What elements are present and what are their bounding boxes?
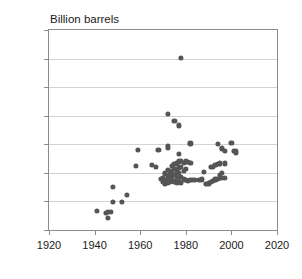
data-point	[165, 145, 170, 150]
data-point	[124, 192, 129, 197]
data-point	[183, 167, 188, 172]
x-tick-label: 1960	[128, 239, 152, 251]
data-point	[176, 152, 181, 157]
data-point	[188, 141, 193, 146]
plot-area: 01000200030004000500060007000 1920194019…	[48, 29, 278, 231]
data-point	[133, 163, 138, 168]
x-tick-mark	[140, 230, 141, 235]
chart-title: Billion barrels	[50, 13, 119, 25]
data-point	[154, 165, 159, 170]
data-point	[119, 199, 124, 204]
data-point	[110, 199, 115, 204]
data-point	[165, 112, 170, 117]
x-tick-mark	[231, 230, 232, 235]
scatter-chart: Billion barrels 010002000300040005000600…	[0, 0, 302, 279]
data-point	[94, 208, 99, 213]
data-point	[179, 55, 184, 60]
data-point	[110, 185, 115, 190]
data-point	[135, 147, 140, 152]
data-point	[156, 147, 161, 152]
x-tick-mark	[277, 230, 278, 235]
data-point	[176, 123, 181, 128]
x-tick-label: 1980	[174, 239, 198, 251]
data-point	[222, 149, 227, 154]
x-tick-mark	[49, 230, 50, 235]
data-points-layer	[49, 30, 277, 230]
x-tick-mark	[186, 230, 187, 235]
data-point	[172, 118, 177, 123]
x-tick-label: 2000	[219, 239, 243, 251]
x-tick-label: 1920	[37, 239, 61, 251]
data-point	[222, 175, 227, 180]
data-point	[201, 169, 206, 174]
data-point	[222, 161, 227, 166]
data-point	[229, 140, 234, 145]
x-tick-mark	[95, 230, 96, 235]
x-tick-label: 1940	[82, 239, 106, 251]
data-point	[199, 177, 204, 182]
data-point	[188, 160, 193, 165]
data-point	[108, 210, 113, 215]
data-point	[233, 151, 238, 156]
data-point	[106, 215, 111, 220]
x-tick-label: 2020	[265, 239, 289, 251]
